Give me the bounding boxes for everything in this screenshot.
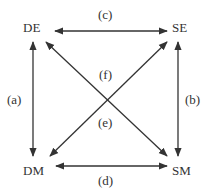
node-dm: DM: [23, 164, 44, 178]
edge-label-a: (a): [7, 93, 21, 107]
edge-label-f: (f): [99, 68, 112, 82]
edge-label-c: (c): [98, 8, 112, 22]
edge-label-b: (b): [185, 93, 200, 107]
edge-label-d: (d): [98, 174, 113, 188]
node-de: DE: [23, 21, 40, 35]
edge-label-e: (e): [98, 116, 112, 130]
node-se: SE: [172, 21, 187, 35]
node-sm: SM: [172, 164, 191, 178]
